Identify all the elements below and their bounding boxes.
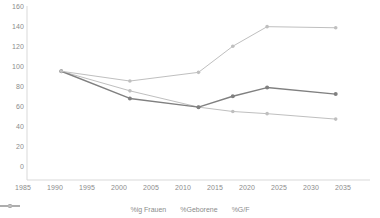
data-point: %Geborene 2015: 77 (231, 94, 235, 98)
legend-item-g-f[interactable]: %G/F (232, 206, 250, 213)
data-point: %G/F 1990: 100 (60, 69, 64, 73)
legend-item-geborene[interactable]: %Geborene (180, 206, 217, 213)
data-point: %G/F 2020: 141 (265, 25, 269, 29)
plot-area: %ig Frauen 1990: 100%ig Frauen 2000: 82%… (0, 0, 380, 218)
data-point: %G/F 2015: 123 (231, 44, 235, 48)
data-point: %Geborene 2000: 75 (128, 96, 132, 100)
legend-label: %Geborene (180, 206, 217, 213)
series-3: %G/F 1990: 100%G/F 2000: 91%G/F 2010: 99… (60, 25, 338, 83)
data-point: %ig Frauen 2030: 56 (334, 117, 338, 121)
data-point: %ig Frauen 2020: 61 (265, 112, 269, 116)
legend-item-ig-frauen[interactable]: %ig Frauen (130, 206, 166, 213)
data-point: %G/F 2030: 140 (334, 26, 338, 30)
legend-label: %ig Frauen (130, 206, 166, 213)
chart-legend: %ig Frauen %Geborene %G/F (0, 202, 380, 216)
data-point: %Geborene 2030: 79 (334, 92, 338, 96)
series-2: %Geborene 1990: 100%Geborene 2000: 75%Ge… (59, 69, 337, 109)
data-point: %ig Frauen 2015: 63 (231, 110, 235, 114)
series-line (61, 71, 335, 119)
data-point: %ig Frauen 2000: 82 (128, 89, 132, 93)
series-layer: %ig Frauen 1990: 100%ig Frauen 2000: 82%… (59, 25, 337, 121)
data-point: %Geborene 2020: 85 (265, 86, 269, 90)
line-chart: 160 140 120 100 80 60 40 20 0 1985 1990 … (0, 0, 380, 218)
data-point: %G/F 2000: 91 (128, 79, 132, 83)
legend-marker-icon (0, 202, 20, 210)
data-point: %Geborene 2010: 67 (197, 105, 201, 109)
legend-label: %G/F (232, 206, 250, 213)
data-point: %G/F 2010: 99 (197, 71, 201, 75)
